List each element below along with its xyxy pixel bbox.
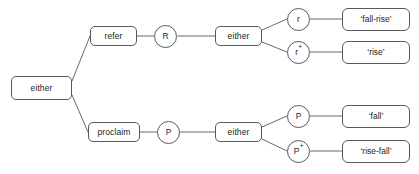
node-r-plus-label: r+ [295,48,302,57]
node-root-either-label: either [31,84,53,93]
edge-root-to-proclaim [72,95,88,132]
node-r-operator[interactable]: R [154,25,177,48]
node-either-lower-label: either [228,128,250,137]
node-p-operator[interactable]: P [157,121,180,144]
node-root-either[interactable]: either [11,76,72,100]
node-r-plus[interactable]: r+ [287,41,310,64]
node-r-plus-sup: + [298,43,302,50]
node-p-plus[interactable]: P+ [287,140,310,163]
tone-decision-tree-diagram: either refer R either r r+ ‘fall-rise’ ‘… [0,0,419,174]
node-r-plain[interactable]: r [287,8,310,31]
node-p-plain-label: P [296,112,302,121]
edge-either-upper-to-r [262,19,287,30]
node-rise-label: ‘rise’ [367,48,384,57]
node-rise[interactable]: ‘rise’ [342,41,410,64]
edge-either-lower-to-p [262,116,287,127]
node-r-plain-base: r [297,14,300,24]
edge-either-upper-to-r-plus [262,42,287,52]
node-fall-label: ‘fall’ [369,112,384,121]
node-fall-rise-label: ‘fall-rise’ [360,15,391,24]
node-p-plain-base: P [296,111,302,121]
node-p-operator-label: P [166,128,172,137]
edge-root-to-refer [72,36,90,81]
node-proclaim-label: proclaim [98,128,131,137]
node-p-plus-base: P [294,146,300,156]
edge-either-lower-to-p-plus [262,139,287,151]
node-p-plus-sup: + [300,142,304,149]
node-r-plain-label: r [297,15,300,24]
node-rise-fall[interactable]: ‘rise-fall’ [342,140,410,163]
node-rise-fall-label: ‘rise-fall’ [360,147,391,156]
node-either-upper-label: either [228,32,250,41]
node-fall-rise[interactable]: ‘fall-rise’ [342,8,410,31]
node-refer-label: refer [105,32,123,41]
node-refer[interactable]: refer [90,26,137,46]
node-either-lower[interactable]: either [215,122,262,142]
node-proclaim[interactable]: proclaim [88,122,140,142]
node-r-operator-label: R [162,32,168,41]
node-fall[interactable]: ‘fall’ [342,105,410,128]
node-either-upper[interactable]: either [215,26,262,46]
node-p-plus-label: P+ [294,147,303,156]
node-p-plain[interactable]: P [287,105,310,128]
